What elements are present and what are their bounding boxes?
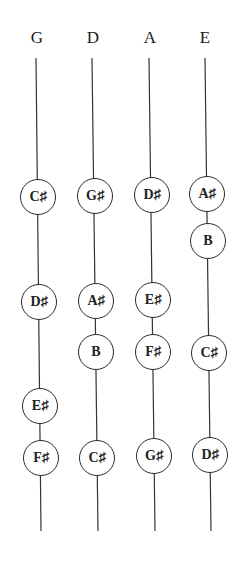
note-a-1: D♯ <box>134 177 170 213</box>
note-e-4: D♯ <box>192 437 228 473</box>
note-d-1: G♯ <box>77 178 113 214</box>
note-a-2: E♯ <box>135 282 171 318</box>
note-e-2: B <box>190 223 226 259</box>
string-label-e: E <box>190 28 220 48</box>
note-a-4: G♯ <box>136 438 172 474</box>
note-g-3: E♯ <box>22 388 58 424</box>
string-label-d: D <box>78 28 108 48</box>
note-g-1: C♯ <box>20 179 56 215</box>
note-e-1: A♯ <box>189 176 225 212</box>
note-g-2: D♯ <box>21 284 57 320</box>
note-e-3: C♯ <box>191 335 227 371</box>
note-d-3: B <box>78 334 114 370</box>
string-lines <box>0 0 244 565</box>
string-label-g: G <box>22 28 52 48</box>
note-g-4: F♯ <box>23 440 59 476</box>
note-d-4: C♯ <box>79 440 115 476</box>
note-d-2: A♯ <box>78 283 114 319</box>
string-label-a: A <box>135 28 165 48</box>
note-a-3: F♯ <box>135 334 171 370</box>
